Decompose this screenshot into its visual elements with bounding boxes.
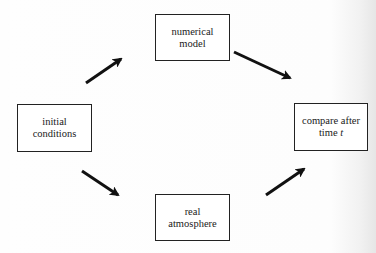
time-variable: t (340, 127, 343, 138)
node-label-line1: compare after (302, 115, 360, 127)
arrow-initial-to-model (86, 59, 121, 83)
arrow-initial-to-real (82, 171, 118, 195)
arrow-model-to-compare (234, 52, 290, 78)
node-initial-conditions: initial conditions (17, 104, 92, 152)
node-numerical-model: numerical model (155, 14, 230, 61)
node-label-line2: model (172, 38, 214, 50)
node-label-line2: atmosphere (168, 218, 216, 230)
node-label-line1: numerical (172, 26, 214, 38)
node-label-line1: initial (33, 116, 77, 128)
node-label-line1: real (168, 206, 216, 218)
node-label-line2: time t (302, 127, 360, 139)
node-compare-after-time-t: compare after time t (294, 103, 368, 151)
node-real-atmosphere: real atmosphere (155, 194, 230, 241)
node-label-line2: conditions (33, 128, 77, 140)
arrow-real-to-compare (266, 169, 304, 195)
node-label-prefix: time (319, 127, 340, 138)
